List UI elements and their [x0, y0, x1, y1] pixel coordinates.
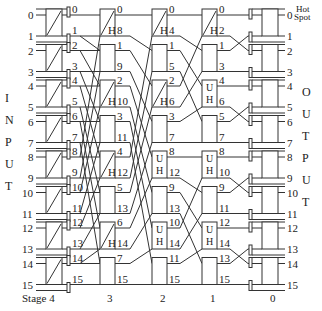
interstage-wire [180, 72, 202, 108]
stage2-out-label: 4 [169, 24, 175, 36]
output-side-letter: U [302, 107, 311, 121]
stage1-out-label: 1 [219, 39, 225, 51]
input-port-label: 13 [22, 243, 34, 255]
buffer-icon [249, 45, 252, 55]
switch-box [100, 187, 115, 214]
stage-label: 0 [270, 292, 276, 304]
u-mark: U [206, 224, 214, 235]
switch-box [262, 222, 278, 249]
switch-box [262, 151, 278, 178]
switch-box [152, 187, 167, 214]
stage3-out-label: 14 [117, 237, 129, 249]
stage1-out-label: 4 [219, 74, 225, 86]
buffer-icon [249, 68, 252, 78]
stage2-out-label: 9 [169, 181, 175, 193]
h-mark: H [108, 237, 116, 249]
stage1-out-label: 0 [219, 3, 225, 15]
hot-spot-label: Spot [294, 12, 311, 22]
output-port-label: 4 [287, 80, 293, 92]
input-port-label: 8 [28, 151, 34, 163]
stage2-out-label: 0 [169, 3, 175, 15]
buffer-icon [67, 283, 70, 293]
stage-label: 1 [210, 292, 216, 304]
switch-box [152, 258, 167, 285]
switch-box [202, 45, 217, 72]
buffer-icon [249, 9, 252, 19]
output-port-label: 7 [287, 137, 293, 149]
output-port-label: 8 [287, 151, 293, 163]
input-side-letter: N [5, 113, 14, 127]
input-port-label: 2 [28, 45, 34, 57]
buffer-icon [67, 114, 70, 124]
switch-box [262, 258, 278, 285]
stage3-out-label: 0 [117, 3, 123, 15]
stage-label: 3 [107, 292, 113, 304]
u-mark: U [206, 82, 214, 93]
interstage-wire [180, 214, 202, 250]
input-port-label: 4 [28, 80, 34, 92]
buffer-icon [249, 174, 252, 184]
interstage-wire [180, 51, 202, 87]
buffer-icon [249, 103, 252, 113]
stage4-out-label: 1 [72, 24, 78, 36]
stage3-out-label: 7 [117, 252, 123, 264]
stage4-out-label: 12 [72, 216, 83, 228]
output-port-label: 15 [287, 279, 299, 291]
stage3-out-label: 8 [117, 24, 123, 36]
interstage-wire [130, 249, 152, 264]
output-side-letter: P [302, 151, 309, 165]
stage3-out-label: 10 [117, 95, 129, 107]
stage2-out-label: 10 [169, 216, 181, 228]
buffer-icon [249, 139, 252, 149]
stage4-out-label: 0 [72, 3, 78, 15]
stage4-out-label: 4 [72, 74, 78, 86]
output-side-letter: O [302, 85, 311, 99]
buffer-icon [249, 80, 252, 90]
stage3-out-label: 11 [117, 131, 128, 143]
output-port-label: 2 [287, 45, 293, 57]
buffer-icon [67, 256, 70, 266]
input-port-label: 14 [22, 258, 34, 270]
output-port-label: 11 [287, 208, 298, 220]
stage-label: Stage 4 [22, 292, 55, 304]
output-side-letter: T [302, 195, 310, 209]
input-port-label: 10 [22, 187, 34, 199]
interstage-wire [130, 36, 152, 51]
stage3-out-label: 2 [117, 74, 123, 86]
network-diagram: 0123456789101112131415012345678910111213… [0, 0, 322, 311]
h-mark: H [210, 24, 218, 36]
buffer-icon [249, 281, 252, 291]
network-svg: 0123456789101112131415012345678910111213… [0, 0, 322, 311]
input-side-letter: U [5, 157, 14, 171]
interstage-wire [80, 249, 100, 264]
stage4-out-label: 6 [72, 110, 78, 122]
buffer-icon [249, 187, 252, 197]
h-mark: H [108, 24, 116, 36]
switch-box [100, 45, 115, 72]
buffer-icon [249, 210, 252, 220]
u-mark: U [156, 153, 164, 164]
switch-box [262, 9, 278, 36]
stage2-out-label: 15 [169, 273, 181, 285]
buffer-icon [67, 149, 70, 159]
h-mark: H [206, 94, 213, 105]
stage1-out-label: 10 [219, 166, 231, 178]
h-mark: H [108, 95, 116, 107]
stage2-out-label: 13 [169, 202, 181, 214]
h-mark: H [206, 236, 213, 247]
stage3-out-label: 3 [117, 110, 123, 122]
output-port-label: 14 [287, 258, 299, 270]
switch-box [100, 258, 115, 285]
output-side-letter: U [302, 173, 311, 187]
switch-box [262, 45, 278, 72]
interstage-wire [80, 72, 100, 179]
switch-box [262, 80, 278, 107]
stage1-out-label: 12 [219, 216, 230, 228]
stage3-out-label: 12 [117, 166, 128, 178]
input-side-letter: T [5, 179, 13, 193]
buffer-icon [249, 116, 252, 126]
stage1-out-label: 6 [219, 95, 225, 107]
h-mark: H [206, 165, 213, 176]
stage4-out-label: 15 [72, 273, 84, 285]
input-port-label: 1 [28, 30, 34, 42]
